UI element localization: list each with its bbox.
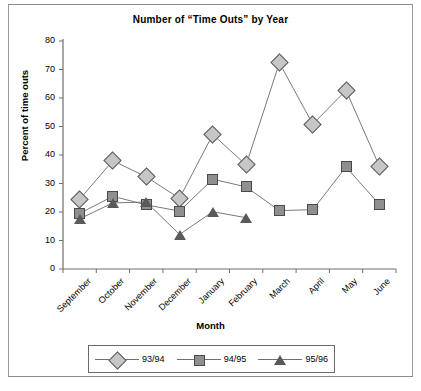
chart-page: Number of “Time Outs” by Year 8070605040…	[0, 0, 421, 391]
point-94-95-march	[274, 205, 285, 216]
plot-area: 80706050403020100 SeptemberOctoberNovemb…	[0, 0, 421, 391]
legend-diamond-icon	[95, 354, 139, 365]
chart-legend: 93/94 94/95 95/96	[88, 345, 335, 373]
point-95-96-february	[240, 213, 252, 223]
legend-triangle-icon	[258, 354, 302, 365]
y-tick-20: 20	[31, 206, 55, 216]
point-95-96-september	[74, 214, 86, 224]
x-axis-title: Month	[0, 320, 421, 331]
y-tick-80: 80	[31, 35, 55, 45]
y-tick-10: 10	[31, 235, 55, 245]
y-tick-70: 70	[31, 64, 55, 74]
point-94-95-june	[374, 199, 385, 210]
point-94-95-april	[307, 204, 318, 215]
y-tick-60: 60	[31, 92, 55, 102]
y-axis-title: Percent of time outs	[19, 26, 30, 206]
plot-svg	[0, 0, 421, 391]
legend-label-1: 94/95	[224, 354, 247, 364]
legend-square-icon	[177, 354, 221, 365]
point-95-96-october	[107, 198, 119, 208]
point-94-95-december	[174, 206, 185, 217]
point-94-95-february	[241, 181, 252, 192]
legend-item-0[interactable]: 93/94	[95, 354, 165, 365]
legend-item-1[interactable]: 94/95	[177, 354, 247, 365]
y-tick-30: 30	[31, 178, 55, 188]
point-95-96-november	[140, 197, 152, 207]
point-95-96-january	[207, 207, 219, 217]
legend-label-2: 95/96	[305, 354, 328, 364]
point-94-95-may	[341, 161, 352, 172]
y-tick-50: 50	[31, 121, 55, 131]
point-95-96-december	[174, 230, 186, 240]
y-tick-40: 40	[31, 149, 55, 159]
y-tick-0: 0	[31, 263, 55, 273]
point-94-95-january	[207, 174, 218, 185]
legend-label-0: 93/94	[142, 354, 165, 364]
legend-item-2[interactable]: 95/96	[258, 354, 328, 365]
